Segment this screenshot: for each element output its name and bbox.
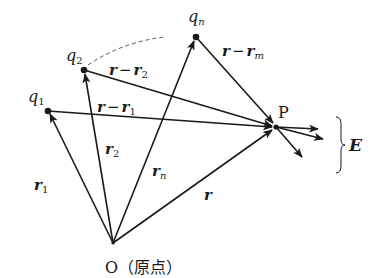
label-p: P	[278, 103, 289, 122]
point-p-dot	[273, 124, 278, 129]
label-q1: q1	[28, 87, 45, 107]
label-r-minus-r1: r−r1	[97, 98, 136, 117]
label-e-field: E	[348, 135, 363, 155]
charge-qn-dot	[193, 34, 200, 41]
vector-diagram: q1 q2 qn P r−r2 r−r1 r−rm r1 r2 rn r O（原…	[0, 0, 381, 278]
label-r-minus-rm: r−rm	[222, 42, 264, 61]
field-brace	[336, 117, 345, 173]
label-rn: rn	[152, 162, 166, 181]
vector-r1	[50, 114, 113, 243]
label-q2: q2	[66, 46, 83, 66]
label-r-minus-r2: r−r2	[109, 61, 148, 80]
origin-dot	[111, 241, 114, 244]
label-qn: qn	[188, 7, 205, 27]
label-r2: r2	[105, 140, 119, 159]
label-r1: r1	[34, 176, 48, 195]
charge-q1-dot	[45, 108, 52, 115]
charge-q2-dot	[81, 67, 88, 74]
label-r: r	[204, 186, 213, 204]
field-vector-3	[276, 127, 302, 157]
vector-r	[113, 130, 272, 243]
label-origin: O（原点）	[105, 258, 182, 277]
